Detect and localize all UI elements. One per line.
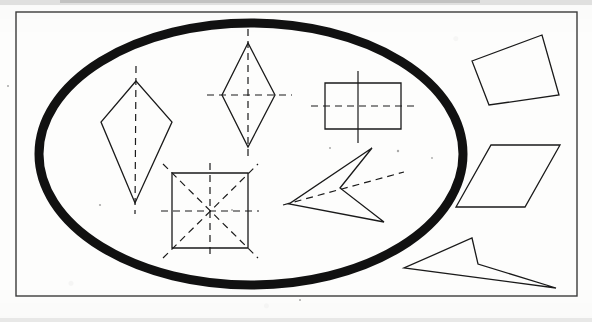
paper-background — [0, 0, 592, 322]
speckle — [329, 147, 331, 149]
bottom-edge-smudge — [0, 318, 592, 322]
speckle — [231, 209, 233, 211]
top-edge-smudge — [60, 0, 480, 3]
speckle — [431, 157, 433, 159]
speckle — [397, 150, 399, 152]
speckle — [99, 204, 101, 206]
speckle — [7, 85, 9, 87]
figure-canvas — [0, 0, 592, 322]
speckle — [299, 299, 301, 301]
